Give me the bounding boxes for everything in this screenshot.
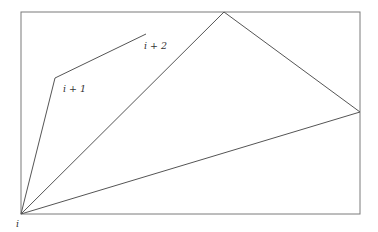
label-i: i <box>16 218 19 229</box>
label-i-plus-1: i + 1 <box>63 83 86 94</box>
label-i-plus-2: i + 2 <box>144 40 167 51</box>
edge-apex-to-right <box>224 12 360 112</box>
chain-i-to-i-plus-2 <box>21 34 146 214</box>
bounding-rectangle <box>21 12 360 214</box>
polygon-diagram: i i + 1 i + 2 <box>0 0 378 232</box>
